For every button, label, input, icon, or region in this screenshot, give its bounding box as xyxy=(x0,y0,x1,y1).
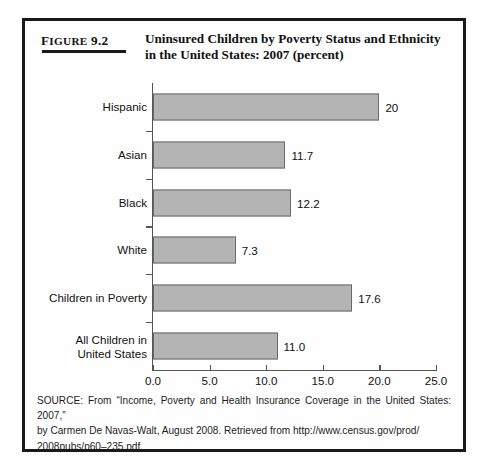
figure-header: FIGURE 9.2 Uninsured Children by Poverty… xyxy=(25,33,463,77)
y-axis-tick xyxy=(146,179,152,180)
bar-row: White7.3 xyxy=(25,226,463,274)
category-label-line: Asian xyxy=(118,148,147,162)
x-axis-tick xyxy=(379,365,380,371)
bar-value-label: 17.6 xyxy=(358,292,381,305)
figure-title-line-2: in the United States: 2007 (percent) xyxy=(145,47,451,63)
y-axis-tick xyxy=(146,322,152,323)
bar xyxy=(153,94,379,121)
x-axis-tick xyxy=(210,365,211,371)
x-axis-tick-label: 20.0 xyxy=(368,374,391,387)
x-axis-tick xyxy=(266,365,267,371)
bar xyxy=(153,285,352,312)
bar-row: Black12.2 xyxy=(25,179,463,227)
category-label-line: Hispanic xyxy=(103,100,147,114)
figure-number-value: 9.2 xyxy=(91,33,108,48)
category-label-line: All Children in xyxy=(75,333,147,347)
source-line-2: by Carmen De Navas-Walt, August 2008. Re… xyxy=(37,423,451,438)
x-axis-tick xyxy=(323,365,324,371)
category-label: All Children inUnited States xyxy=(75,333,147,360)
bar-row: All Children inUnited States11.0 xyxy=(25,322,463,370)
bar xyxy=(153,141,285,168)
bar-value-label: 12.2 xyxy=(297,196,320,209)
figure-number-word: IGURE xyxy=(49,35,87,47)
figure-frame: FIGURE 9.2 Uninsured Children by Poverty… xyxy=(22,18,466,452)
category-label-line: White xyxy=(117,244,147,258)
y-axis-tick xyxy=(146,131,152,132)
x-axis-tick-label: 0.0 xyxy=(145,374,161,387)
x-axis-tick xyxy=(153,365,154,371)
bar xyxy=(153,237,236,264)
x-axis-tick-label: 25.0 xyxy=(425,374,448,387)
source-line-3: 2008pubs/p60–235.pdf. xyxy=(37,439,451,454)
x-axis-tick-label: 15.0 xyxy=(312,374,335,387)
bar-value-label: 11.0 xyxy=(284,340,306,353)
bar-value-label: 20 xyxy=(385,101,398,114)
bar-row: Children in Poverty17.6 xyxy=(25,274,463,322)
category-label: Black xyxy=(119,196,147,210)
bar xyxy=(153,333,278,360)
x-axis-line xyxy=(152,370,436,371)
category-label-line: Black xyxy=(119,196,147,210)
x-axis-tick-label: 10.0 xyxy=(255,374,278,387)
source-line-1: SOURCE: From “Income, Poverty and Health… xyxy=(37,393,451,423)
x-axis-tick-label: 5.0 xyxy=(202,374,218,387)
figure-title-line-1: Uninsured Children by Poverty Status and… xyxy=(145,31,451,47)
category-label: White xyxy=(117,244,147,258)
figure-number-rule xyxy=(42,50,126,53)
bar-row: Hispanic20 xyxy=(25,83,463,131)
bar-value-label: 7.3 xyxy=(242,244,258,257)
category-label: Hispanic xyxy=(103,100,147,114)
x-axis-tick xyxy=(436,365,437,371)
category-label: Children in Poverty xyxy=(49,291,147,305)
y-axis-tick xyxy=(146,274,152,275)
category-label-line: United States xyxy=(75,346,147,360)
figure-number-label: FIGURE 9.2 xyxy=(41,33,145,49)
category-label: Asian xyxy=(118,148,147,162)
category-label-line: Children in Poverty xyxy=(49,291,147,305)
y-axis-tick xyxy=(146,226,152,227)
bar-chart-plot-area: Hispanic20Asian11.7Black12.2White7.3Chil… xyxy=(25,79,463,384)
figure-title: Uninsured Children by Poverty Status and… xyxy=(145,31,451,63)
bar-row: Asian11.7 xyxy=(25,131,463,179)
bar-value-label: 11.7 xyxy=(291,148,313,161)
bar xyxy=(153,189,291,216)
source-note: SOURCE: From “Income, Poverty and Health… xyxy=(37,393,451,454)
